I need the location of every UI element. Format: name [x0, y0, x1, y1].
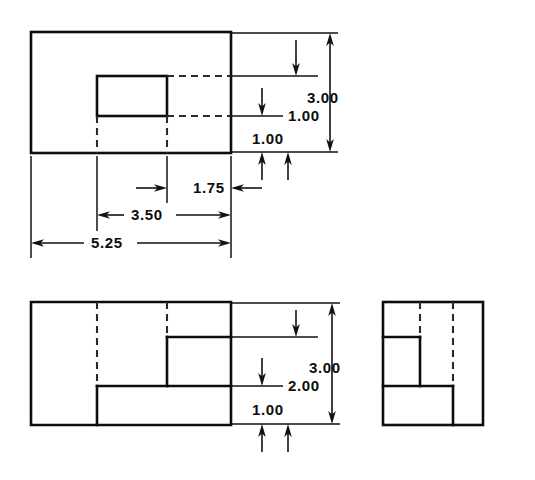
front-dim-label-3-00: 3.00	[309, 359, 341, 376]
top-view-vertical-dimensions: 3.00 1.00 1.00	[231, 33, 339, 180]
dim-label-5-25: 5.25	[91, 234, 123, 251]
dim-label-1-75: 1.75	[193, 179, 225, 196]
engineering-drawing: 3.00 1.00 1.00 1.75 3.50	[0, 0, 535, 480]
front-view	[31, 302, 231, 425]
dim-label-3-00-top: 3.00	[307, 89, 339, 106]
top-view-horizontal-dimensions: 1.75 3.50 5.25	[31, 156, 262, 258]
side-view-outline	[383, 302, 483, 425]
front-view-vertical-dimensions: 3.00 2.00 1.00	[231, 303, 341, 452]
recess-rectangle	[97, 76, 167, 116]
top-view-outline	[31, 32, 231, 153]
front-dim-label-2-00: 2.00	[288, 377, 320, 394]
top-view	[31, 32, 231, 153]
front-dim-label-1-00: 1.00	[252, 401, 284, 418]
dim-label-1-00-lower: 1.00	[252, 130, 284, 147]
engineering-drawing-canvas: 3.00 1.00 1.00 1.75 3.50	[0, 0, 535, 480]
dim-label-1-00-recess: 1.00	[288, 107, 320, 124]
side-view	[383, 302, 483, 425]
dim-label-3-50: 3.50	[131, 206, 163, 223]
front-view-outline	[31, 302, 231, 425]
